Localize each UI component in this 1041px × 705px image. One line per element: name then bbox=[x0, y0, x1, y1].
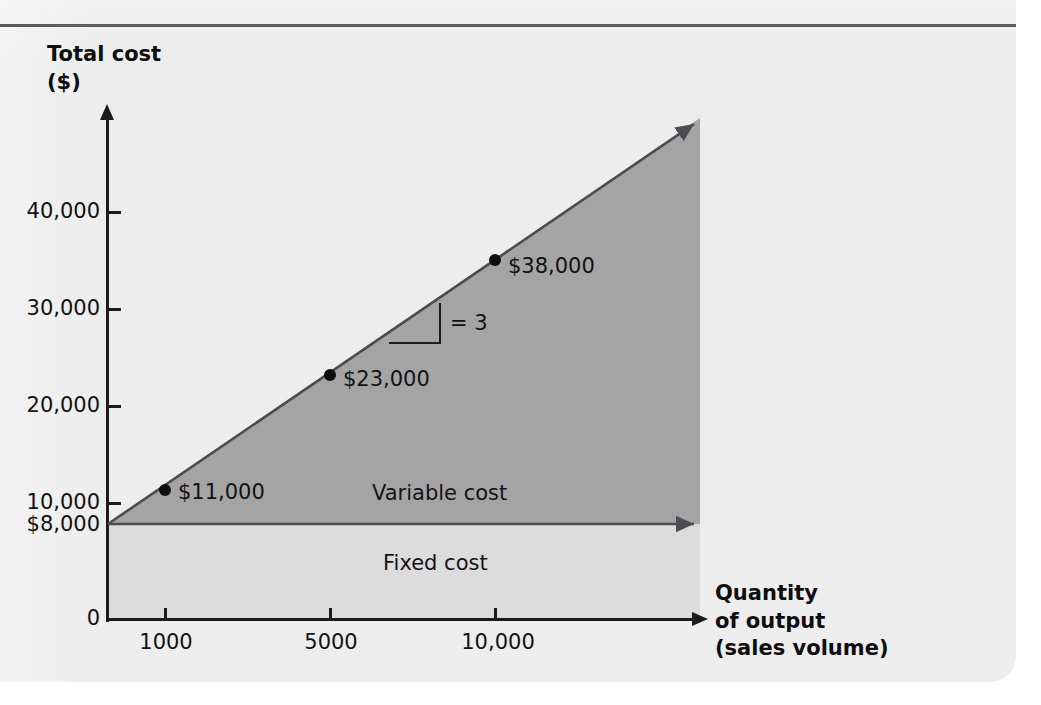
y-tick-20000 bbox=[109, 405, 121, 408]
y-tick-label-10000: 10,000 bbox=[0, 490, 100, 514]
x-axis-arrowhead-icon bbox=[692, 612, 708, 626]
y-axis-title-line1: Total cost bbox=[47, 40, 161, 68]
y-tick-label-8000: $8,000 bbox=[0, 512, 100, 536]
slope-triangle-rise bbox=[439, 303, 441, 344]
x-tick-5000 bbox=[329, 608, 332, 620]
variable-cost-label: Variable cost bbox=[372, 481, 507, 505]
x-tick-label-5000: 5000 bbox=[304, 630, 357, 654]
data-point-5000 bbox=[324, 369, 336, 381]
x-axis-line bbox=[106, 618, 694, 621]
x-tick-10000 bbox=[494, 608, 497, 620]
y-axis-title: Total cost ($) bbox=[47, 40, 161, 97]
variable-cost-region bbox=[108, 118, 700, 524]
slope-value-label: = 3 bbox=[450, 311, 488, 335]
y-tick-label-40000: 40,000 bbox=[0, 199, 100, 223]
data-point-label-11000: $11,000 bbox=[178, 480, 265, 504]
y-tick-30000 bbox=[109, 308, 121, 311]
x-tick-label-10000: 10,000 bbox=[461, 630, 534, 654]
x-tick-1000 bbox=[164, 608, 167, 620]
x-axis-title-line3: (sales volume) bbox=[715, 635, 889, 663]
y-axis-line bbox=[106, 118, 109, 622]
x-axis-title-line2: of output bbox=[715, 608, 889, 636]
y-axis-arrowhead-icon bbox=[100, 104, 114, 120]
y-tick-label-20000: 20,000 bbox=[0, 393, 100, 417]
y-tick-10000 bbox=[109, 502, 121, 505]
figure-page: 40,000 30,000 20,000 10,000 $8,000 0 100… bbox=[0, 0, 1041, 705]
total-cost-chart: 40,000 30,000 20,000 10,000 $8,000 0 100… bbox=[0, 0, 1016, 682]
y-tick-label-0: 0 bbox=[0, 606, 100, 630]
y-tick-label-30000: 30,000 bbox=[0, 296, 100, 320]
x-axis-title: Quantity of output (sales volume) bbox=[715, 580, 889, 663]
data-point-10000 bbox=[489, 254, 501, 266]
slope-triangle-run bbox=[389, 342, 441, 344]
y-axis-title-line2: ($) bbox=[47, 68, 161, 96]
data-point-1000 bbox=[159, 484, 171, 496]
y-tick-40000 bbox=[109, 211, 121, 214]
x-axis-title-line1: Quantity bbox=[715, 580, 889, 608]
fixed-cost-label: Fixed cost bbox=[383, 551, 488, 575]
x-tick-label-1000: 1000 bbox=[139, 630, 192, 654]
data-point-label-23000: $23,000 bbox=[343, 367, 430, 391]
data-point-label-38000: $38,000 bbox=[508, 254, 595, 278]
